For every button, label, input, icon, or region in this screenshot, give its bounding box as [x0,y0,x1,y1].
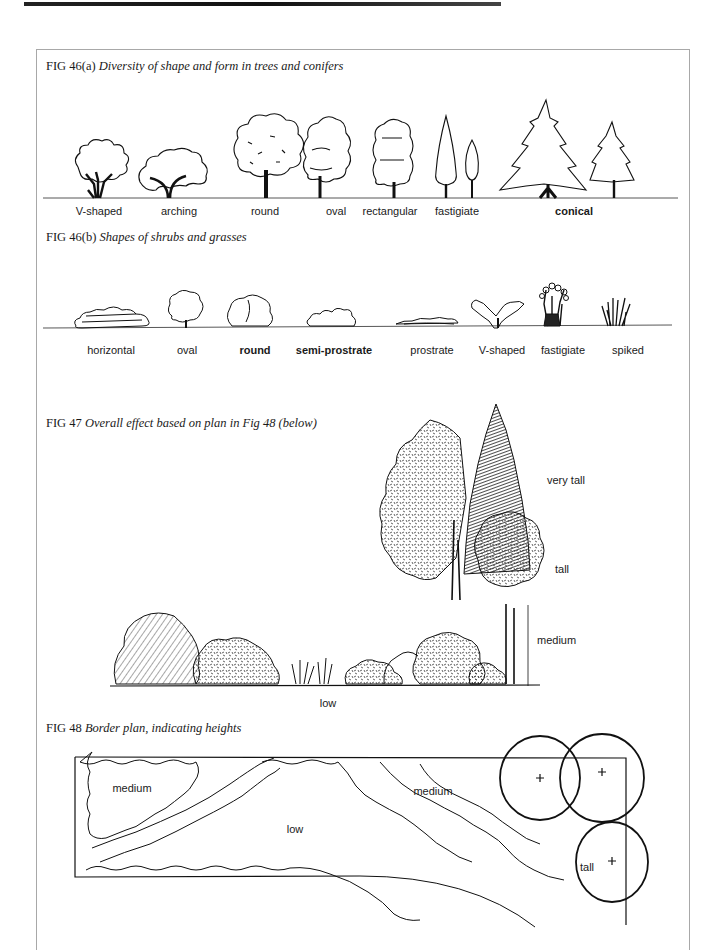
fig48-label-low: low [287,823,304,835]
fig48-label-tall: tall [580,861,594,873]
fig48-label-medium-left: medium [112,782,151,794]
plan-trunk-marker-2 [598,768,606,776]
plan-low-bottom-edge [86,866,420,920]
plan-trunk-marker-1 [536,774,544,782]
plan-lawn-curve [360,876,535,927]
plan-diagonal-strip [92,758,280,862]
plan-tree-canopy-2 [560,734,644,822]
plan-top-edge [262,760,472,862]
fig48-label-medium-right: medium [413,785,452,797]
plan-trunk-marker-3 [608,857,616,865]
plan-outer-boundary [75,757,626,925]
plan-medium-left-zone [80,752,199,839]
plan-medium-right-strip [380,762,564,880]
